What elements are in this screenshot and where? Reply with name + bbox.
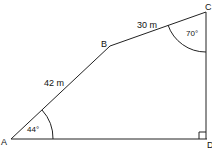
edge-label-ab: 42 m bbox=[44, 78, 64, 88]
quadrilateral-diagram: A B C D 42 m 30 m 44° 70° bbox=[0, 0, 212, 154]
point-label-d: D bbox=[207, 140, 212, 150]
angle-arc-a bbox=[42, 110, 53, 139]
edge-ab bbox=[11, 46, 110, 139]
point-label-c: C bbox=[205, 2, 212, 12]
right-angle-marker-d bbox=[199, 132, 206, 139]
point-label-a: A bbox=[1, 137, 7, 147]
angle-label-c: 70° bbox=[186, 29, 198, 38]
edge-label-bc: 30 m bbox=[137, 20, 157, 30]
point-label-b: B bbox=[101, 39, 107, 49]
angle-label-a: 44° bbox=[27, 125, 39, 134]
